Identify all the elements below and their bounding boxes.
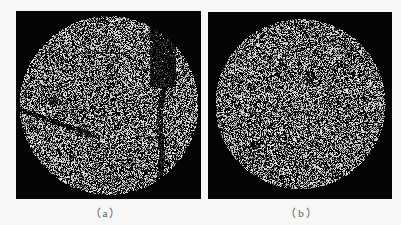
speckle-image-b (208, 12, 392, 199)
speckle-canvas-a (16, 11, 201, 199)
caption-a: （a） (90, 204, 123, 220)
speckle-canvas-b (208, 12, 392, 199)
speckle-image-a (16, 11, 201, 199)
caption-b: （b） (285, 204, 319, 220)
